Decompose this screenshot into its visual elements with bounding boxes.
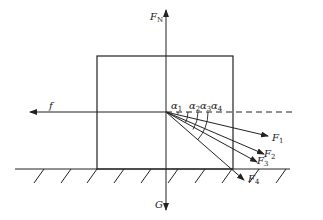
- label-f1: F1: [271, 132, 283, 145]
- label-normal-force: FN: [149, 11, 163, 24]
- label-gravity: G: [155, 199, 163, 210]
- force-f3-arrow: [166, 112, 257, 162]
- force-f1-arrow: [166, 112, 268, 136]
- label-alpha1: α1: [171, 100, 182, 113]
- force-f2-arrow: [166, 112, 264, 154]
- label-alpha3: α3: [200, 100, 211, 113]
- label-f4: F4: [247, 173, 260, 186]
- label-alpha2: α2: [189, 100, 200, 113]
- label-alpha4: α4: [211, 100, 223, 113]
- force-diagram: FN G f F1 F2 F3 F4 α1 α2 α3 α4: [0, 0, 323, 220]
- label-friction: f: [48, 100, 55, 111]
